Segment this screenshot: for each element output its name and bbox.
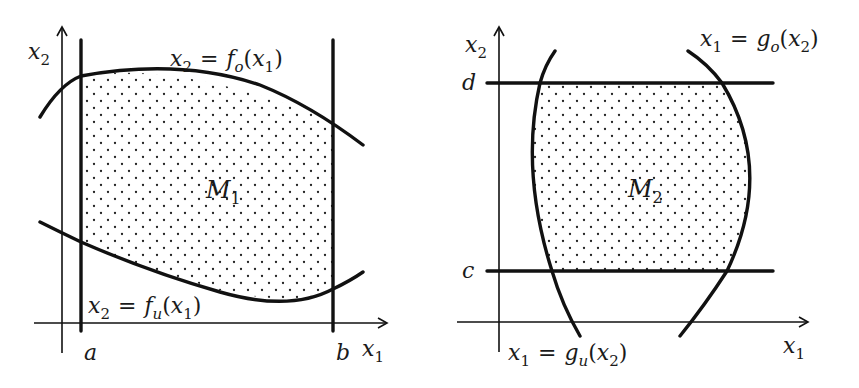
label-d: d [462,70,476,95]
upper-curve-label: x2=fo(x1) [170,46,283,76]
right-curve-label: x1=go(x2) [700,26,819,56]
label-a: a [84,340,97,365]
integration-regions-diagram: x2 x1 a b M1 x2=fo(x1) x2=fu(x1) x2 x1 d… [0,0,859,388]
x1-axis-label-left: x1 [362,336,384,366]
figure-right: x2 x1 d c M2 x1=go(x2) x1=gu(x2) [457,26,819,370]
figure-left: x2 x1 a b M1 x2=fo(x1) x2=fu(x1) [28,27,387,366]
label-b: b [336,340,350,365]
x1-axis-label-right: x1 [783,333,805,363]
x2-axis-label-left: x2 [28,39,50,69]
x2-axis-label-right: x2 [465,32,487,62]
left-curve-label: x1=gu(x2) [508,340,627,370]
lower-curve-label: x2=fu(x1) [88,293,201,323]
label-c: c [462,258,474,283]
region-m2-fill [530,80,780,275]
